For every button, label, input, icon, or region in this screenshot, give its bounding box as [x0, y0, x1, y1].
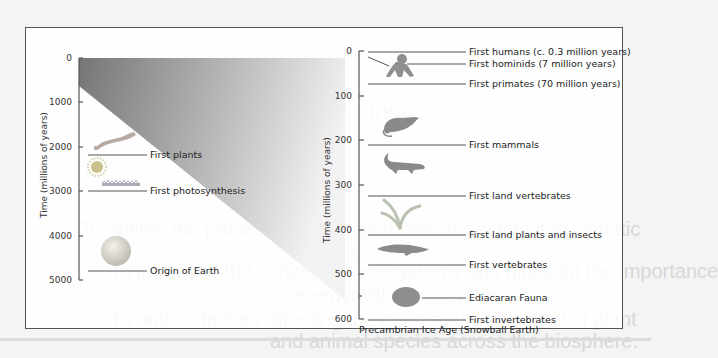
right-axis — [359, 51, 364, 319]
stromatolite-icon — [102, 180, 140, 186]
left-tick-label: 4000 — [49, 231, 72, 241]
event-label-ediacaran-fauna: Ediacaran Fauna — [469, 293, 548, 303]
snowball-earth-label: Precambrian Ice Age (Snowball Earth) — [359, 324, 539, 335]
reptile-icon — [384, 153, 425, 174]
event-label-first-plants: First plants — [150, 150, 202, 160]
event-label-origin-of-earth: Origin of Earth — [150, 266, 219, 276]
event-label-first-primates: First primates (70 million years) — [469, 79, 621, 89]
right-tick-label: 0 — [346, 46, 352, 56]
right-tick-label: 300 — [335, 180, 352, 190]
event-label-first-photosynthesis: First photosynthesis — [150, 186, 245, 196]
left-axis-title: Time (millions of years) — [39, 112, 49, 219]
fish-icon — [377, 245, 429, 256]
right-axis-title: Time (millions of years) — [322, 137, 332, 244]
left-tick-label: 2000 — [49, 142, 72, 152]
mammal-icon — [383, 117, 419, 136]
right-tick-label: 600 — [335, 314, 352, 324]
left-tick-label: 1000 — [49, 97, 72, 107]
right-tick-label: 200 — [335, 135, 352, 145]
left-tick-label: 3000 — [49, 186, 72, 196]
right-tick-label: 400 — [335, 225, 352, 235]
event-label-first-mammals: First mammals — [469, 140, 539, 150]
event-label-first-land-vertebrates: First land vertebrates — [469, 191, 571, 201]
right-tick-label: 100 — [335, 91, 352, 101]
event-label-first-hominids: First hominids (7 million years) — [469, 59, 616, 69]
event-label-first-vertebrates: First vertebrates — [469, 260, 547, 270]
left-tick-label: 0 — [66, 53, 72, 63]
plant-icon — [382, 200, 420, 228]
ape-icon — [386, 54, 414, 77]
earth-icon — [101, 236, 131, 266]
left-tick-label: 5000 — [49, 275, 72, 285]
seaweed-icon — [94, 132, 136, 150]
event-label-first-land-plants-insects: First land plants and insects — [469, 230, 602, 240]
sun-icon — [88, 158, 106, 176]
right-tick-label: 500 — [335, 269, 352, 279]
ediacaran-icon — [392, 287, 420, 307]
event-label-first-humans: First humans (c. 0.3 million years) — [469, 47, 631, 57]
